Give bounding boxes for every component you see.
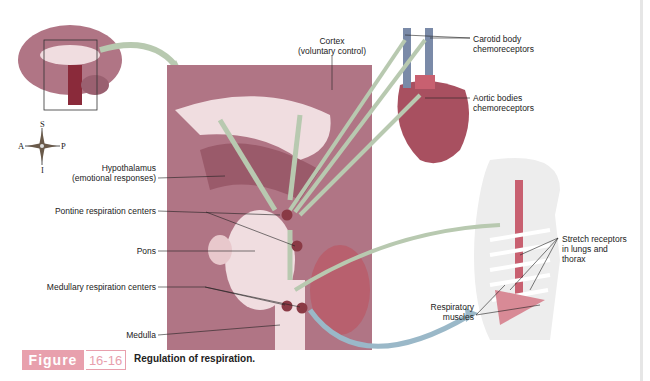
label-pontine-centers: Pontine respiration centers xyxy=(30,206,156,216)
label-medulla: Medulla xyxy=(100,330,156,340)
compass-anterior: A xyxy=(18,141,24,151)
brain-section-panel xyxy=(167,65,372,350)
torso-illustration xyxy=(474,158,560,340)
label-medullary-centers: Medullary respiration centers xyxy=(20,282,156,292)
compass-icon xyxy=(25,128,60,165)
figure-caption: Regulation of respiration. xyxy=(134,353,255,364)
figure-badge: Figure xyxy=(22,350,84,370)
pontine-center-dot xyxy=(282,210,293,221)
label-hypothalamus: Hypothalamus (emotional responses) xyxy=(60,163,156,183)
label-cortex: Cortex (voluntary control) xyxy=(296,36,368,56)
label-respiratory-muscles: Respiratory muscles xyxy=(420,302,474,322)
figure-number: 16-16 xyxy=(86,350,126,370)
label-carotid-body: Carotid body chemoreceptors xyxy=(473,34,534,54)
pontine-center-dot xyxy=(292,241,303,252)
label-pons: Pons xyxy=(100,246,156,256)
medullary-center-dot xyxy=(282,301,293,312)
medullary-center-dot xyxy=(297,303,308,314)
page-edge xyxy=(640,0,643,381)
heart-illustration xyxy=(398,28,470,163)
illustration xyxy=(0,0,650,381)
brain-thumbnail xyxy=(18,25,122,110)
label-stretch-receptors: Stretch receptors in lungs and thorax xyxy=(562,234,627,264)
label-aortic-bodies: Aortic bodies chemoreceptors xyxy=(473,93,534,113)
compass-inferior: I xyxy=(41,165,44,175)
compass-posterior: P xyxy=(61,141,66,151)
compass-superior: S xyxy=(40,119,45,129)
